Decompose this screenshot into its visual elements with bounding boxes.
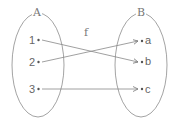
set-b-label: B [136,7,146,18]
dot-1 [37,39,39,41]
element-b: b [145,56,151,67]
function-label: f [83,27,89,38]
element-1: 1 [29,35,35,46]
diagram-canvas [0,0,178,123]
dot-c [141,88,143,90]
dot-2 [37,61,39,63]
dot-a [141,40,143,42]
dot-b [141,61,143,63]
function-diagram: A B f 1 2 3 a b c [0,0,178,123]
element-3: 3 [29,84,35,95]
element-a: a [145,35,151,46]
set-b-ellipse [115,13,167,117]
element-c: c [145,84,151,95]
set-a-ellipse [12,13,64,117]
dot-3 [37,88,39,90]
element-2: 2 [29,57,35,68]
set-a-label: A [32,7,42,18]
